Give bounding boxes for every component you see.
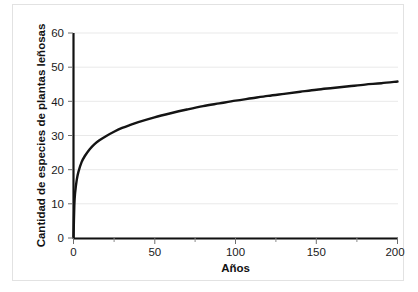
y-tick-label-40: 40 bbox=[51, 96, 64, 108]
x-tick-label-0: 0 bbox=[70, 246, 76, 258]
x-tick-label-50: 50 bbox=[148, 246, 161, 258]
data-curve-group bbox=[74, 82, 398, 238]
y-tickmarks-group bbox=[68, 33, 73, 238]
y-tick-label-0: 0 bbox=[58, 232, 64, 244]
x-tick-label-100: 100 bbox=[226, 246, 245, 258]
y-tick-label-60: 60 bbox=[51, 27, 64, 39]
y-tick-label-20: 20 bbox=[51, 164, 64, 176]
gridlines-group bbox=[73, 33, 398, 238]
species-accumulation-chart: 0 10 20 30 40 50 60 0 50 100 150 200 Año… bbox=[0, 0, 418, 292]
y-tick-label-10: 10 bbox=[51, 198, 64, 210]
y-axis-title: Cantidad de especies de plantas leñosas bbox=[35, 24, 47, 248]
x-axis-title: Años bbox=[221, 262, 250, 274]
y-tick-label-50: 50 bbox=[51, 61, 64, 73]
x-tick-label-150: 150 bbox=[307, 246, 326, 258]
x-tick-label-200: 200 bbox=[385, 246, 404, 258]
species-curve bbox=[74, 82, 398, 238]
x-tick-labels-group: 0 50 100 150 200 bbox=[70, 246, 404, 258]
y-tick-labels-group: 0 10 20 30 40 50 60 bbox=[51, 27, 64, 244]
y-tick-label-30: 30 bbox=[51, 130, 64, 142]
